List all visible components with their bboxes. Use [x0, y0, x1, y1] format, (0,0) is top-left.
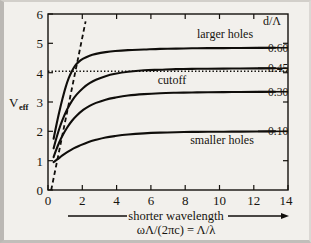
legend-label-0-30: 0.30 [268, 86, 288, 98]
x-tick-label-4: 4 [113, 193, 120, 208]
y-tick-label-3: 3 [37, 95, 44, 110]
x-tick-label-12: 12 [247, 193, 260, 208]
x-tick-label-8: 8 [182, 193, 189, 208]
x-tick-label-10: 10 [213, 193, 226, 208]
arrow-right-icon [281, 213, 289, 219]
x-tick-label-6: 6 [148, 193, 155, 208]
y-axis-title: V [9, 95, 19, 110]
x-axis-formula: ωΛ/(2πc) = Λ/λ [137, 223, 215, 237]
x-tick-label-2: 2 [79, 193, 86, 208]
annotation-cutoff: cutoff [158, 73, 186, 87]
x-axis-caption: shorter wavelength [128, 209, 224, 223]
y-tick-label-1: 1 [37, 154, 44, 169]
y-tick-label-6: 6 [37, 7, 44, 22]
y-axis-title-subscript: eff [19, 102, 29, 112]
legend-label-0-10: 0.10 [268, 125, 288, 137]
y-tick-label-4: 4 [37, 66, 44, 81]
figure-container: 0 1 2 3 4 5 6 0 2 4 6 8 10 12 14 V eff [0, 0, 311, 243]
annotation-larger-holes: larger holes [197, 27, 253, 41]
legend-label-0-60: 0.60 [268, 42, 288, 54]
curve-0-30 [54, 92, 276, 157]
y-tick-label-5: 5 [37, 36, 44, 51]
y-tick-label-2: 2 [37, 124, 44, 139]
y-tick-marks [48, 14, 53, 190]
x-tick-label-14: 14 [280, 193, 294, 208]
legend-label-0-45: 0.45 [268, 62, 288, 74]
x-tick-label-0: 0 [45, 193, 52, 208]
annotation-smaller-holes: smaller holes [190, 133, 254, 147]
legend-header: d/Λ [263, 14, 281, 28]
chart-svg: 0 1 2 3 4 5 6 0 2 4 6 8 10 12 14 V eff [0, 0, 311, 243]
y-tick-label-0: 0 [37, 183, 44, 198]
